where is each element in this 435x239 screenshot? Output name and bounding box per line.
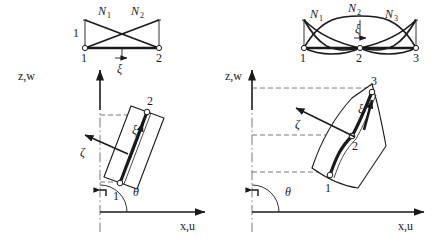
left-sf-node-2-marker [156, 45, 161, 50]
left-sf-node-label-2: 2 [156, 51, 162, 65]
right-shape-function-plot: N 1 N 2 N 3 1 2 3 ξ [300, 1, 419, 65]
left-geo-zeta-label: ζ [80, 145, 86, 159]
right-sf-node-label-3: 3 [413, 51, 419, 65]
right-geo-theta-label: θ [285, 185, 291, 199]
right-sf-node-1-marker [301, 45, 306, 50]
right-geo-theta-corner-marker [252, 190, 258, 196]
left-geo-xi-label: ξ [132, 123, 138, 137]
right-sf-node-3-marker [413, 45, 418, 50]
right-sf-label-n1-sub: 1 [319, 14, 323, 23]
left-sf-label-n1: N [97, 4, 107, 18]
left-shape-function-plot: 1 N 1 N 2 1 2 ξ [73, 4, 162, 76]
left-geo-z-axis-label: z,w [18, 69, 35, 83]
left-sf-xi-label: ξ [117, 62, 123, 76]
left-geometry: z,w x,u θ 1 2 ξ ζ [18, 69, 205, 233]
left-sf-node-label-1: 1 [81, 51, 87, 65]
right-geometry: z,w x,u θ 1 2 3 ξ ζ [225, 69, 424, 233]
right-geo-xi-label: ξ [358, 102, 364, 116]
figure-root: 1 N 1 N 2 1 2 ξ z,w x,u θ [0, 0, 435, 239]
right-geo-node-3-marker [369, 89, 375, 95]
right-geo-x-axis-label: x,u [398, 219, 413, 233]
left-geo-node-1-marker [117, 180, 123, 186]
left-sf-label-n2: N [130, 4, 140, 18]
figure-canvas: 1 N 1 N 2 1 2 ξ z,w x,u θ [0, 0, 435, 239]
left-geo-node-label-2: 2 [147, 94, 153, 108]
right-sf-node-label-2: 2 [356, 51, 362, 65]
right-sf-label-n1: N [309, 7, 319, 21]
right-sf-label-n2-sub: 2 [357, 8, 361, 17]
right-sf-node-label-1: 1 [300, 51, 306, 65]
right-sf-label-n2: N [347, 1, 357, 15]
right-geo-node-1-marker [327, 172, 333, 178]
left-sf-label-n2-sub: 2 [140, 11, 144, 20]
left-geo-x-axis-label: x,u [180, 219, 195, 233]
right-geo-theta-arc [252, 185, 279, 212]
right-geo-node-label-2: 2 [352, 139, 358, 153]
left-sf-label-n1-sub: 1 [107, 11, 111, 20]
right-geo-z-axis-label: z,w [225, 69, 242, 83]
right-geo-node-label-1: 1 [325, 181, 331, 195]
right-geo-zeta-label: ζ [295, 117, 301, 131]
right-sf-label-n3-sub: 3 [394, 14, 398, 23]
left-geo-node-label-1: 1 [113, 189, 119, 203]
left-sf-axis-value-label: 1 [73, 26, 79, 40]
right-geo-node-label-3: 3 [371, 74, 377, 88]
right-sf-xi-label: ξ [355, 22, 361, 36]
right-sf-label-n3: N [384, 7, 394, 21]
left-geo-node-2-marker [144, 109, 150, 115]
left-sf-node-1-marker [82, 45, 87, 50]
right-sf-node-2-marker [357, 45, 362, 50]
left-geo-theta-corner-marker [100, 190, 106, 196]
